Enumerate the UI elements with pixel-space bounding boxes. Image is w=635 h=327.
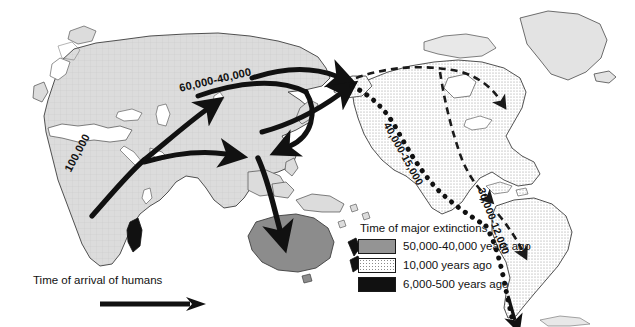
- route-out-of-africa: [92, 160, 144, 216]
- route-pacific-coast-dotted: [352, 86, 486, 226]
- route-across-asia: [144, 152, 226, 162]
- legend-swatch-10000: [358, 258, 396, 273]
- legend-label-6000-500: 6,000-500 years ago: [403, 279, 509, 291]
- legend-swatch-50000-40000: [358, 239, 396, 254]
- route-to-australia: [258, 158, 280, 230]
- route-to-beringia-upper: [252, 69, 336, 78]
- arrival-key-caption: Time of arrival of humans: [33, 274, 162, 286]
- legend-item: 10,000 years ago: [358, 258, 531, 273]
- legend-label-10000: 10,000 years ago: [403, 260, 492, 272]
- right-arrow-icon: [98, 296, 208, 312]
- legend: Time of major extinctions 50,000-40,000 …: [358, 222, 531, 296]
- route-interior-south-dashed: [440, 72, 486, 196]
- legend-title: Time of major extinctions: [360, 222, 531, 234]
- route-interior-north-dashed: [356, 67, 500, 100]
- migration-extinction-map: 100,000 60,000-40,000 40,000-15,000 30,0…: [0, 0, 635, 327]
- legend-item: 50,000-40,000 years ago: [358, 239, 531, 254]
- legend-label-50000-40000: 50,000-40,000 years ago: [403, 241, 531, 253]
- legend-swatch-6000-500: [358, 277, 396, 292]
- legend-item: 6,000-500 years ago: [358, 277, 531, 292]
- route-to-beringia-lower: [262, 94, 340, 132]
